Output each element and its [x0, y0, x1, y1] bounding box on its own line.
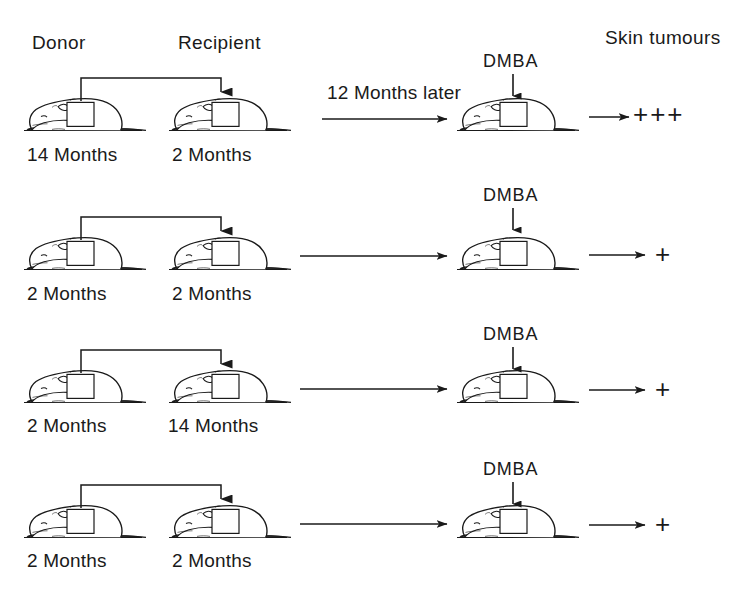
- column-header-donor: Donor: [32, 33, 86, 52]
- result-row-2: +: [655, 241, 672, 267]
- recipient-mouse-row-2: [169, 238, 291, 270]
- donor-age-row-2: 2 Months: [27, 284, 107, 303]
- treated-mouse-row-4: [457, 506, 579, 538]
- column-header-outcome: Skin tumours: [605, 28, 721, 47]
- recipient-age-row-4: 2 Months: [172, 551, 252, 570]
- graft-transfer-arrow-row-2: [81, 217, 221, 240]
- dmba-label-row-4: DMBA: [483, 460, 538, 478]
- recipient-age-row-1: 2 Months: [172, 145, 252, 164]
- dmba-label-row-1: DMBA: [483, 52, 538, 70]
- recipient-mouse-row-4: [169, 506, 291, 538]
- donor-mouse-row-4: [24, 506, 146, 538]
- donor-mouse-row-1: [24, 99, 146, 131]
- interval-label-row-1: 12 Months later: [327, 83, 461, 102]
- experiment-diagram: Donor Recipient Skin tumours DMBA 12 Mon…: [0, 0, 751, 605]
- donor-age-row-1: 14 Months: [27, 145, 118, 164]
- graft-transfer-arrow-row-4: [81, 485, 221, 508]
- donor-mouse-row-2: [24, 238, 146, 270]
- recipient-mouse-row-1: [169, 99, 291, 131]
- donor-mouse-row-3: [24, 371, 146, 403]
- dmba-label-row-3: DMBA: [483, 325, 538, 343]
- donor-age-row-3: 2 Months: [27, 416, 107, 435]
- treated-mouse-row-1: [457, 99, 579, 131]
- recipient-mouse-row-3: [169, 371, 291, 403]
- donor-age-row-4: 2 Months: [27, 551, 107, 570]
- treated-mouse-row-3: [457, 371, 579, 403]
- recipient-age-row-2: 2 Months: [172, 284, 252, 303]
- column-header-recipient: Recipient: [178, 33, 261, 52]
- recipient-age-row-3: 14 Months: [168, 416, 259, 435]
- result-row-1: +++: [633, 101, 685, 127]
- graft-transfer-arrow-row-1: [81, 78, 221, 101]
- graft-transfer-arrow-row-3: [81, 350, 221, 373]
- treated-mouse-row-2: [457, 238, 579, 270]
- result-row-3: +: [655, 376, 672, 402]
- result-row-4: +: [655, 511, 672, 537]
- dmba-label-row-2: DMBA: [483, 186, 538, 204]
